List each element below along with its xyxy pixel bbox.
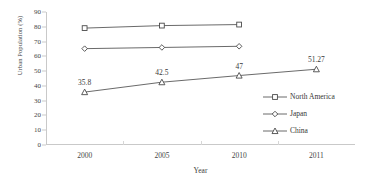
y-tick-label: 50 <box>19 67 41 75</box>
data-label: 35.8 <box>78 78 91 87</box>
line-chart: Urban Population (%) 0102030405060708090… <box>0 0 375 185</box>
legend-marker-icon <box>262 109 288 119</box>
data-point-marker <box>82 26 87 31</box>
y-tick-label: 60 <box>19 52 41 60</box>
x-axis-title: Year <box>46 166 355 175</box>
x-tick-label: 2010 <box>232 151 247 160</box>
legend-marker-icon <box>262 126 288 136</box>
data-label: 47 <box>235 62 243 71</box>
y-tick-label: 90 <box>19 8 41 16</box>
legend-marker-icon <box>262 92 288 102</box>
data-point-marker <box>236 44 242 50</box>
legend-label: North America <box>288 92 335 101</box>
legend-item-china[interactable]: China <box>262 122 370 139</box>
y-tick-label: 0 <box>19 141 41 149</box>
y-tick-label: 40 <box>19 82 41 90</box>
data-point-marker <box>82 46 88 52</box>
data-point-marker <box>237 22 242 27</box>
data-label: 42.5 <box>155 68 168 77</box>
data-point-marker <box>273 94 278 99</box>
data-point-marker <box>159 23 164 28</box>
y-tick-label: 20 <box>19 111 41 119</box>
legend-label: China <box>288 126 308 135</box>
legend-item-north-america[interactable]: North America <box>262 88 370 105</box>
y-tick-label: 30 <box>19 97 41 105</box>
legend-label: Japan <box>288 109 307 118</box>
x-tick-label: 2005 <box>154 151 169 160</box>
legend-item-japan[interactable]: Japan <box>262 105 370 122</box>
y-tick-label: 80 <box>19 23 41 31</box>
y-tick-label: 70 <box>19 38 41 46</box>
y-tick-label: 10 <box>19 126 41 134</box>
data-point-marker <box>159 45 165 51</box>
data-point-marker <box>272 111 278 117</box>
data-label: 51.27 <box>308 55 325 64</box>
chart-legend: North AmericaJapanChina <box>262 88 370 139</box>
x-tick-label: 2011 <box>309 151 324 160</box>
x-tick-label: 2000 <box>77 151 92 160</box>
